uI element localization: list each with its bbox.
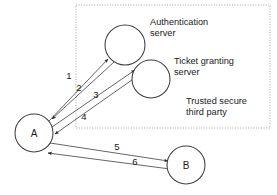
diagram-canvas: A B 1 2 3 4 5 6 Authentication server Ti…	[0, 0, 277, 195]
node-b-label: B	[183, 160, 190, 171]
edge-5-label: 5	[114, 141, 119, 152]
ticket-granting-server-caption-line-1: Ticket granting	[174, 56, 234, 66]
authentication-server-caption-line-2: server	[150, 28, 176, 38]
node-authentication-server	[105, 25, 145, 65]
edge-2-label: 2	[76, 82, 81, 93]
node-group	[15, 25, 205, 184]
edge-6-arrow	[48, 153, 170, 169]
node-ticket-granting-server	[132, 60, 170, 98]
authentication-server-caption-line-1: Authentication	[150, 17, 208, 27]
trusted-secure-third-party-caption-line-2: third party	[186, 107, 227, 117]
ticket-granting-server-caption-line-2: server	[174, 67, 200, 77]
edge-3-label: 3	[93, 89, 98, 100]
diagram-svg: A B 1 2 3 4 5 6 Authentication server Ti…	[0, 0, 277, 195]
edge-6-label: 6	[132, 156, 137, 167]
node-a-label: A	[31, 128, 38, 139]
trusted-secure-third-party-caption-line-1: Trusted secure	[186, 96, 247, 106]
edge-5-arrow	[50, 143, 168, 161]
edge-4-label: 4	[81, 111, 86, 122]
edge-1-label: 1	[66, 70, 71, 81]
